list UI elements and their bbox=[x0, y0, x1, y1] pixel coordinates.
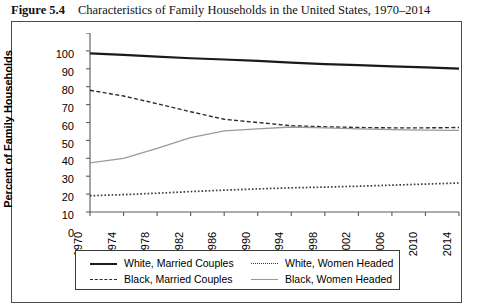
figure-caption: Figure 5.4Characteristics of Family Hous… bbox=[11, 2, 466, 19]
y-axis-tick-label: 20 bbox=[48, 191, 74, 203]
chart-series-line-0 bbox=[90, 53, 459, 68]
chart-plot-area bbox=[79, 33, 464, 224]
legend-label: White, Women Headed bbox=[285, 255, 393, 271]
legend-swatch-dashed-icon bbox=[90, 274, 117, 284]
legend-swatch-dotted-icon bbox=[251, 258, 278, 268]
x-axis-ticks bbox=[90, 212, 459, 216]
figure-frame: Percent of Family Households 01020304050… bbox=[11, 21, 462, 303]
y-axis-tick-label: 50 bbox=[48, 138, 74, 150]
y-axis-ticks bbox=[86, 33, 90, 212]
figure-number: Figure 5.4 bbox=[11, 3, 65, 17]
y-axis-tick-labels: 0102030405060708090100 bbox=[48, 54, 74, 233]
chart-svg bbox=[79, 33, 464, 224]
legend-swatch-solid-thick-icon bbox=[90, 258, 117, 268]
y-axis-tick-label: 90 bbox=[48, 66, 74, 78]
y-axis-tick-label: 70 bbox=[48, 102, 74, 114]
legend-entry-white-women-headed: White, Women Headed bbox=[247, 255, 399, 271]
chart-series-group bbox=[90, 53, 459, 195]
legend-row: Black, Married Couples Black, Women Head… bbox=[76, 271, 399, 287]
y-axis-tick-label: 0 bbox=[48, 227, 74, 239]
legend-label: Black, Women Headed bbox=[285, 271, 392, 287]
y-axis-tick-label: 30 bbox=[48, 173, 74, 185]
y-axis-tick-label: 10 bbox=[48, 209, 74, 221]
legend-entry-black-women-headed: Black, Women Headed bbox=[247, 271, 399, 287]
chart-series-line-3 bbox=[90, 127, 459, 163]
x-axis-tick-label: 2014 bbox=[441, 226, 454, 262]
y-axis-title: Percent of Family Households bbox=[0, 34, 17, 224]
legend-row: White, Married Couples White, Women Head… bbox=[76, 255, 399, 271]
legend-entry-black-married: Black, Married Couples bbox=[76, 271, 247, 287]
legend-label: Black, Married Couples bbox=[124, 271, 233, 287]
chart-legend: White, Married Couples White, Women Head… bbox=[75, 250, 400, 290]
x-axis-tick-label: 2010 bbox=[407, 226, 420, 262]
legend-entry-white-married: White, Married Couples bbox=[76, 255, 247, 271]
y-axis-tick-label: 60 bbox=[48, 120, 74, 132]
legend-swatch-solid-thin-icon bbox=[251, 274, 278, 284]
figure-title: Characteristics of Family Households in … bbox=[78, 3, 430, 17]
y-axis-tick-label: 40 bbox=[48, 155, 74, 167]
y-axis-tick-label: 80 bbox=[48, 84, 74, 96]
chart-series-line-1 bbox=[90, 90, 459, 128]
chart-series-line-2 bbox=[90, 183, 459, 196]
y-axis-tick-label: 100 bbox=[48, 48, 74, 60]
legend-label: White, Married Couples bbox=[124, 255, 234, 271]
